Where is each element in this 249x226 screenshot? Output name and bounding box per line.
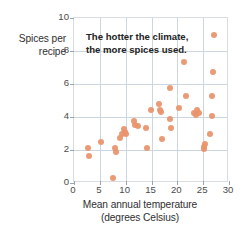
data-point [98,139,104,145]
chart-annotation-line-1: The hotter the climate, [86,30,188,43]
x-axis-title: Mean annual temperature (degrees Celsius… [40,199,240,224]
data-point [168,125,174,131]
data-point [196,110,202,116]
x-tick-label: 15 [140,185,162,195]
data-point [86,153,92,159]
x-axis-title-line-2: (degrees Celsius) [40,212,240,225]
gridline-horizontal [74,84,227,85]
y-tick-label: 10 [45,12,69,22]
data-point [209,113,215,119]
x-tick-label: 20 [165,185,187,195]
data-point [148,107,154,113]
data-point [159,136,165,142]
x-tick-label: 25 [191,185,213,195]
y-tick-label: 4 [45,111,69,121]
data-point [181,59,187,65]
y-tick-label: 8 [45,45,69,55]
y-tick-label: 2 [45,144,69,154]
data-point [207,131,213,137]
data-point [210,69,216,75]
x-tick-label: 10 [114,185,136,195]
data-point [167,116,173,122]
y-tick-mark [70,51,74,52]
data-point [113,149,119,155]
data-point [201,146,207,152]
x-tick-label: 0 [62,185,84,195]
gridline-vertical [203,18,204,181]
x-tick-label: 5 [88,185,110,195]
y-tick-mark [70,18,74,19]
data-point [156,101,162,107]
y-tick-mark [70,150,74,151]
y-tick-label: 6 [45,78,69,88]
data-point [183,93,189,99]
x-axis-title-line-1: Mean annual temperature [40,199,240,212]
y-tick-mark [70,84,74,85]
data-point [176,105,182,111]
data-point [135,123,141,129]
chart-annotation: The hotter the climate, the more spices … [86,30,188,56]
data-point [209,93,215,99]
data-point [110,175,116,181]
data-point [123,131,129,137]
y-axis-tick-labels: 0246810 [44,17,69,182]
data-point [211,32,217,38]
x-tick-label: 30 [217,185,239,195]
data-point [158,109,164,115]
scatter-chart-figure: Spices per recipe 0246810 The hotter the… [0,0,249,226]
plot-area: The hotter the climate, the more spices … [73,17,228,182]
y-tick-mark [70,117,74,118]
chart-annotation-line-2: the more spices used. [86,43,188,56]
gridline-horizontal [74,117,227,118]
data-point [143,125,149,131]
data-point [167,85,173,91]
data-point [202,141,208,147]
x-axis-tick-labels: 051015202530 [73,185,228,199]
